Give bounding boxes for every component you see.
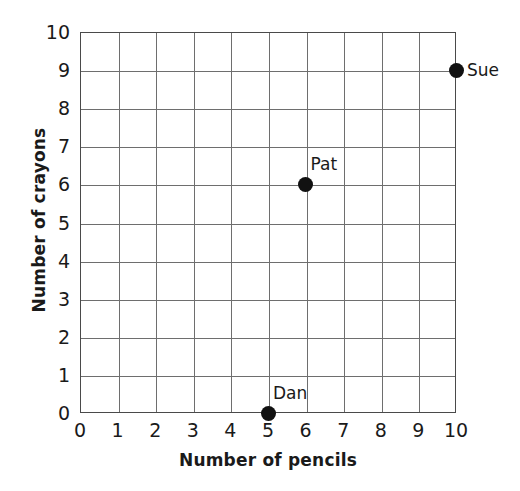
gridline-vertical [231, 33, 232, 412]
gridline-vertical [419, 33, 420, 412]
gridline-vertical [269, 33, 270, 412]
x-axis-tick-label: 10 [436, 421, 476, 440]
x-axis-tick-label: 2 [135, 421, 175, 440]
x-axis-tick-label: 1 [98, 421, 138, 440]
gridlines [81, 33, 455, 412]
gridline-horizontal [81, 338, 455, 339]
gridline-vertical [382, 33, 383, 412]
x-axis-ticks: 012345678910 [80, 413, 456, 449]
y-axis-title: Number of crayons [29, 70, 49, 370]
gridline-vertical [119, 33, 120, 412]
gridline-vertical [307, 33, 308, 412]
gridline-vertical [156, 33, 157, 412]
x-axis-tick-label: 0 [60, 421, 100, 440]
x-axis-tick-label: 7 [323, 421, 363, 440]
y-axis-tick-label: 10 [8, 23, 70, 42]
gridline-horizontal [81, 262, 455, 263]
gridline-vertical [344, 33, 345, 412]
x-axis-tick-label: 9 [398, 421, 438, 440]
x-axis-tick-label: 8 [361, 421, 401, 440]
gridline-horizontal [81, 71, 455, 72]
x-axis-tick-label: 5 [248, 421, 288, 440]
gridline-horizontal [81, 109, 455, 110]
x-axis-tick-label: 6 [286, 421, 326, 440]
gridline-horizontal [81, 376, 455, 377]
plot-area [80, 32, 456, 413]
gridline-horizontal [81, 300, 455, 301]
gridline-horizontal [81, 185, 455, 186]
gridline-horizontal [81, 147, 455, 148]
gridline-vertical [194, 33, 195, 412]
x-axis-tick-label: 4 [210, 421, 250, 440]
x-axis-title: Number of pencils [80, 450, 456, 470]
scatter-plot: SuePatDan 012345678910 012345678910 Numb… [0, 0, 520, 491]
data-point-label: Sue [467, 62, 499, 79]
x-axis-tick-label: 3 [173, 421, 213, 440]
gridline-horizontal [81, 224, 455, 225]
